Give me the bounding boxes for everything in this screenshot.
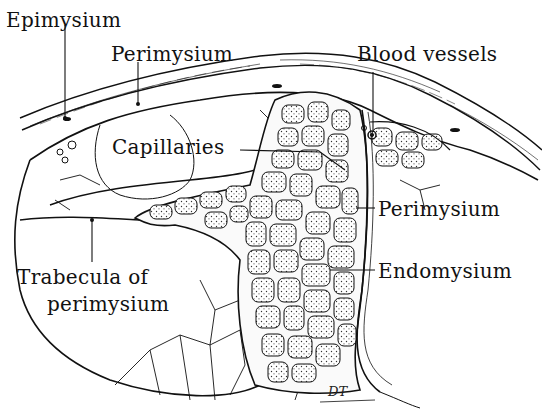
label-endomysium: Endomysium <box>378 261 512 281</box>
label-perimysium-right: Perimysium <box>378 199 500 219</box>
artist-signature: DT <box>328 384 347 399</box>
label-trabecula-line2: perimysium <box>47 294 169 314</box>
label-trabecula-line1: Trabecula of <box>17 267 148 287</box>
label-blood-vessels: Blood vessels <box>357 44 497 64</box>
label-perimysium-top: Perimysium <box>111 44 233 64</box>
label-capillaries: Capillaries <box>112 137 225 157</box>
label-epimysium: Epimysium <box>6 10 121 30</box>
muscle-diagram: Epimysium Perimysium Blood vessels Capil… <box>0 0 542 413</box>
